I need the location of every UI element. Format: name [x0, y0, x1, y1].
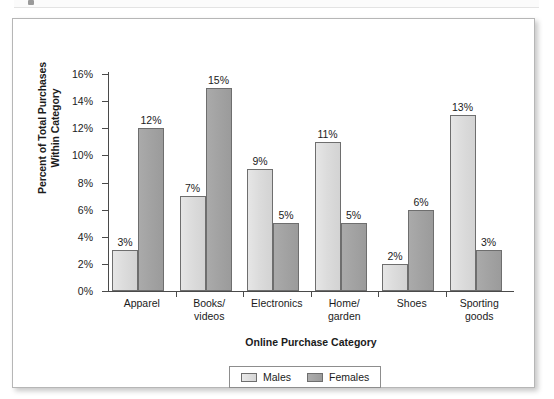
y-tick-label-6: 6%	[78, 204, 93, 216]
plot-area: 0% 2% 4% 6% 8% 10% 12% 14% 16% 3% 12%	[108, 74, 513, 291]
bar-females-home-garden[interactable]: 5%	[341, 223, 367, 291]
bar-females-books-videos[interactable]: 15%	[206, 88, 232, 291]
bar-males-books-videos[interactable]: 7%	[180, 196, 206, 291]
x-category-label-apparel: Apparel	[108, 297, 176, 310]
bar-males-home-garden[interactable]: 11%	[315, 142, 341, 291]
y-tick-label-2: 2%	[78, 258, 93, 270]
bar-males-shoes[interactable]: 2%	[382, 264, 408, 291]
bar-females-apparel[interactable]: 12%	[138, 128, 164, 291]
top-marker-icon	[28, 0, 34, 5]
legend-item-males[interactable]: Males	[241, 371, 291, 383]
y-tick-label-10: 10%	[72, 149, 93, 161]
x-category-label-books-videos: Books/ videos	[176, 297, 244, 323]
bar-value-males-home-garden: 11%	[317, 128, 337, 140]
bar-group-sporting-goods: 13% 3%	[446, 74, 514, 291]
bar-males-apparel[interactable]: 3%	[112, 250, 138, 291]
bar-value-females-electronics: 5%	[278, 209, 293, 221]
bar-group-home-garden: 11% 5%	[311, 74, 379, 291]
bar-group-shoes: 2% 6%	[378, 74, 446, 291]
chart-legend: Males Females	[229, 366, 381, 388]
bar-females-electronics[interactable]: 5%	[273, 223, 299, 291]
x-category-label-sporting-goods: Sporting goods	[446, 297, 514, 323]
bar-value-males-sporting-goods: 13%	[452, 101, 473, 113]
y-tick-label-0: 0%	[78, 285, 93, 297]
bar-value-females-sporting-goods: 3%	[481, 236, 496, 248]
bar-value-males-electronics: 9%	[252, 155, 267, 167]
y-tick-label-12: 12%	[72, 122, 93, 134]
y-tick-label-8: 8%	[78, 177, 93, 189]
bar-value-males-books-videos: 7%	[185, 182, 200, 194]
x-category-label-electronics: Electronics	[243, 297, 311, 310]
y-axis-title: Percent of Total Purchases Within Catego…	[36, 48, 62, 208]
bar-males-electronics[interactable]: 9%	[247, 169, 273, 291]
y-tick-label-4: 4%	[78, 231, 93, 243]
bar-value-males-shoes: 2%	[387, 250, 402, 262]
y-tick-0: 0%	[102, 291, 108, 292]
chart-figure-card: Percent of Total Purchases Within Catego…	[12, 18, 535, 388]
bar-value-females-home-garden: 5%	[346, 209, 361, 221]
bar-group-apparel: 3% 12%	[108, 74, 176, 291]
y-tick-label-16: 16%	[72, 68, 93, 80]
bar-females-shoes[interactable]: 6%	[408, 210, 434, 291]
bar-group-electronics: 9% 5%	[243, 74, 311, 291]
legend-swatch-males-icon	[241, 373, 257, 382]
legend-item-females[interactable]: Females	[307, 371, 369, 383]
bar-value-females-apparel: 12%	[140, 114, 161, 126]
bar-value-females-shoes: 6%	[413, 196, 428, 208]
legend-swatch-females-icon	[307, 373, 323, 382]
bar-group-books-videos: 7% 15%	[176, 74, 244, 291]
bar-value-males-apparel: 3%	[117, 236, 132, 248]
bar-value-females-books-videos: 15%	[208, 74, 229, 86]
bar-chart: Percent of Total Purchases Within Catego…	[13, 19, 534, 387]
y-tick-label-14: 14%	[72, 95, 93, 107]
x-axis-title: Online Purchase Category	[108, 336, 514, 348]
legend-label-males: Males	[263, 371, 291, 383]
x-category-label-shoes: Shoes	[378, 297, 446, 310]
bar-females-sporting-goods[interactable]: 3%	[476, 250, 502, 291]
x-category-label-home-garden: Home/ garden	[311, 297, 379, 323]
bar-males-sporting-goods[interactable]: 13%	[450, 115, 476, 291]
legend-label-females: Females	[329, 371, 369, 383]
truncated-top-element	[14, 0, 539, 8]
